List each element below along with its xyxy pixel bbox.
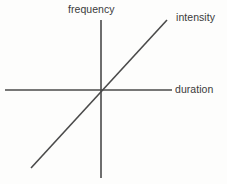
axes-diagram: frequency intensity duration [0,0,227,184]
horizontal-axis-label: duration [175,84,213,95]
diagonal-line-label: intensity [176,12,215,23]
vertical-axis-label: frequency [68,4,115,15]
intensity-diagonal-line [31,20,167,168]
